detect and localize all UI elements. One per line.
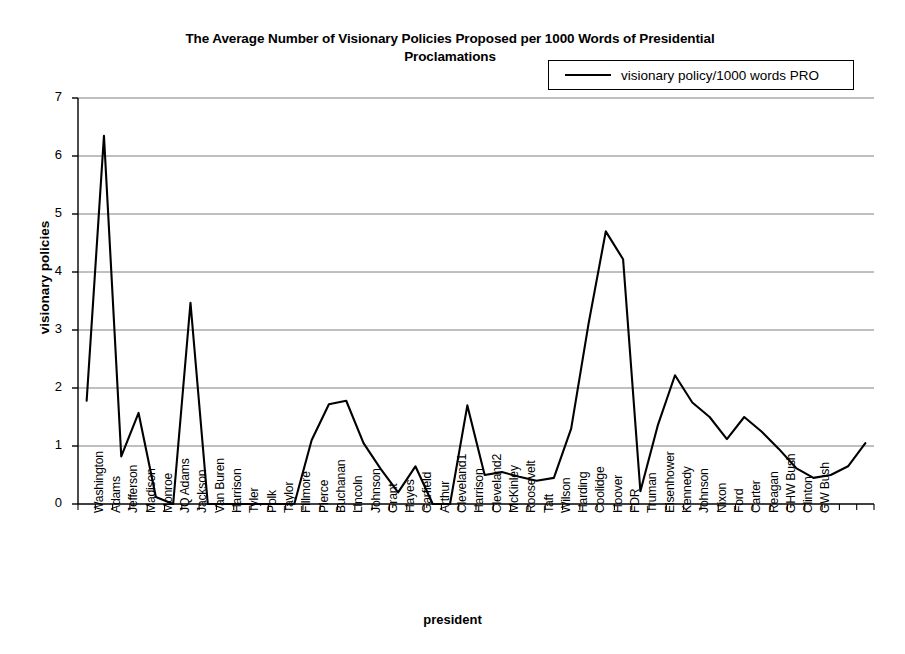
y-axis-tick-label: 3 <box>32 321 62 336</box>
x-axis-tick-label: Cleveland1 <box>455 454 469 513</box>
x-axis-tick-label: Roosevelt <box>524 461 538 513</box>
x-axis-tick-label: Polk <box>265 490 279 513</box>
x-axis-tick-label: Wilson <box>559 478 573 513</box>
chart-figure: The Average Number of Visionary Policies… <box>0 0 905 654</box>
x-axis-tick-label: McKinley <box>507 465 521 513</box>
x-axis-tick-label: Lincoln <box>351 476 365 513</box>
x-axis-tick-label: Grant <box>386 484 400 513</box>
y-axis-tick-label: 2 <box>32 379 62 394</box>
x-axis-tick-label: Johnson <box>369 468 383 513</box>
x-axis-tick-label: GHW Bush <box>784 454 798 513</box>
y-axis-tick-label: 5 <box>32 205 62 220</box>
x-axis-tick-label: Carter <box>749 480 763 513</box>
x-axis-tick-label: Harding <box>576 472 590 513</box>
x-axis-tick-label: GW Bush <box>818 462 832 513</box>
x-axis-tick-label: Nixon <box>715 483 729 513</box>
x-axis-tick-label: Coolidge <box>593 466 607 513</box>
x-axis-tick-label: Kennedy <box>680 466 694 513</box>
y-axis-tick-label: 0 <box>32 495 62 510</box>
x-axis-tick-label: Buchanan <box>334 460 348 513</box>
x-axis-tick-label: Tyler <box>247 488 261 513</box>
x-axis-tick-label: Taft <box>542 494 556 513</box>
x-axis-tick-label: Jackson <box>195 470 209 513</box>
y-axis-ticks <box>72 98 78 504</box>
x-axis-tick-label: JQ Adams <box>178 458 192 513</box>
x-axis-tick-label: Van Buren <box>213 458 227 513</box>
y-axis-tick-label: 7 <box>32 89 62 104</box>
x-axis-tick-label: Washington <box>92 451 106 513</box>
y-axis-tick-label: 6 <box>32 147 62 162</box>
x-axis-tick-label: FDR <box>628 489 642 513</box>
x-axis-tick-label: Hoover <box>611 475 625 513</box>
x-axis-tick-label: Ford <box>732 489 746 513</box>
x-axis-tick-label: Garfield <box>420 472 434 513</box>
y-axis-tick-label: 1 <box>32 437 62 452</box>
x-axis-tick-label: Cleveland2 <box>490 454 504 513</box>
x-axis-tick-label: Taylor <box>282 482 296 513</box>
x-axis-tick-label: Johnson <box>697 468 711 513</box>
x-axis-tick-label: Clinton <box>801 476 815 513</box>
x-axis-tick-label: Arthur <box>438 481 452 513</box>
y-axis-tick-label: 4 <box>32 263 62 278</box>
x-axis-tick-label: Fillmore <box>299 471 313 513</box>
x-axis-tick-label: Eisenhower <box>663 451 677 513</box>
x-axis-tick-label: Harrison <box>230 469 244 513</box>
x-axis-tick-label: Pierce <box>317 480 331 513</box>
x-axis-tick-label: Harrison <box>472 469 486 513</box>
x-axis-tick-label: Jefferson <box>126 465 140 513</box>
x-axis-tick-label: Truman <box>645 473 659 513</box>
x-axis-tick-label: Adams <box>109 476 123 513</box>
x-axis-tick-label: Madison <box>144 468 158 513</box>
x-axis-tick-label: Hayes <box>403 479 417 513</box>
x-axis-tick-label: Reagan <box>767 472 781 514</box>
x-axis-tick-label: Monroe <box>161 473 175 513</box>
plot-area <box>0 0 905 654</box>
data-series-line <box>87 136 866 504</box>
